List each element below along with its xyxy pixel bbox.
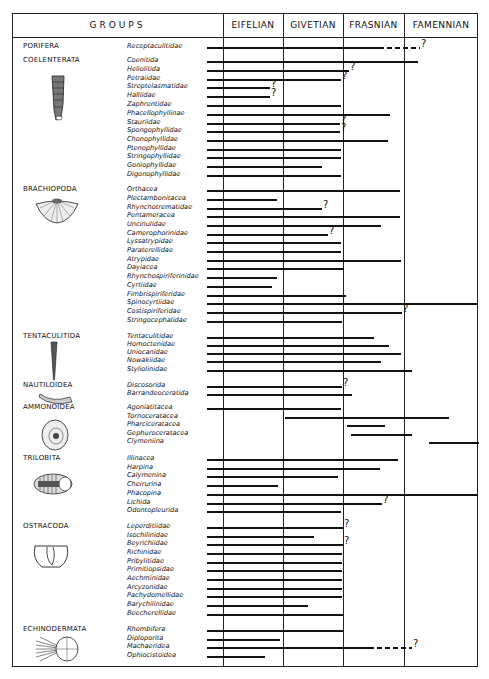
ammonite-icon [40,418,70,452]
taxon-label: Richinidae [127,548,161,556]
range-bar [207,614,343,616]
range-bar [207,295,346,297]
taxon-label: Rhynchospiriferinidae [127,272,199,280]
range-bar [207,303,477,305]
range-bar [207,553,342,555]
taxon-label: Goniophyllidae [127,161,176,169]
taxon-label: Zaphrentidae [127,100,172,108]
taxon-label: Petraiidae [127,74,160,82]
taxon-label: Ophiocistoidea [127,651,176,659]
taxon-label: Odontopleurida [127,506,178,514]
range-bar [207,656,265,658]
taxon-label: Spinocyrtiidae [127,298,174,306]
uncertain-marker: ? [383,495,388,505]
header-groups: GROUPS [12,13,223,37]
range-bar [207,216,400,218]
group-label: PORIFERA [23,42,59,50]
range-bar [207,131,340,133]
header-frasnian: FRASNIAN [343,13,404,37]
column-divider-eifelian [283,13,284,667]
taxon-label: Illinacea [127,454,154,462]
range-bar [207,527,343,529]
range-bar [207,312,402,314]
taxon-label: Spongophyllidae [127,126,182,134]
uncertain-marker: ? [421,39,426,49]
taxon-label: Styliolinidae [127,365,167,373]
uncertain-marker: ? [344,519,349,529]
taxon-label: Arcyzonidae [127,583,168,591]
taxon-label: Gephuroceratacea [127,429,188,437]
range-bar [207,47,384,49]
taxon-label: Barychilinidae [127,600,174,608]
range-bar [207,199,277,201]
taxon-label: Calymenina [127,471,166,479]
taxon-label: Paraterellidae [127,246,173,254]
taxon-label: Diploporita [127,634,163,642]
taxon-label: Tornoceratacea [127,412,178,420]
taxon-label: Camerophorinidae [127,229,188,237]
taxon-label: Fimbrispiriferidae [127,290,185,298]
column-divider-givetian [343,13,344,667]
taxon-label: Homoctenidae [127,340,175,348]
uncertain-range-dash [387,47,420,49]
brachiopod-shell-icon [34,196,80,224]
group-label: ECHINODERMATA [23,625,86,633]
trilobite-icon [32,472,74,496]
group-label: NAUTILOIDEA [23,381,73,389]
range-bar [207,361,381,363]
range-bar [207,511,341,513]
range-bar [207,157,341,159]
taxon-label: Coenitida [127,56,158,64]
range-bar [207,386,342,388]
range-bar [207,225,381,227]
range-bar [207,476,338,478]
taxon-label: Aechminidae [127,574,170,582]
range-bar [207,588,342,590]
range-bar [207,579,342,581]
range-bar [207,268,344,270]
taxon-label: Primitiopsidae [127,565,174,573]
range-bar [207,149,341,151]
header-eifelian: EIFELIAN [223,13,283,37]
taxon-label: Cheirurina [127,480,161,488]
uncertain-marker: ? [323,200,328,210]
range-bar [207,485,278,487]
taxon-label: Beecherellidae [127,609,176,617]
range-bar [207,544,343,546]
range-bar [207,345,389,347]
uncertain-marker: ? [343,378,348,388]
taxon-label: Harpina [127,463,153,471]
range-bar [285,417,449,419]
range-bar [207,468,380,470]
header-famennian: FAMENNIAN [404,13,478,37]
taxon-label: Chonophyllidae [127,135,178,143]
taxon-label: Uniocanidae [127,348,168,356]
taxon-label: Beyrichiidae [127,539,168,547]
ostracod-shell-icon [32,542,70,570]
chart-frame [12,13,478,667]
uncertain-marker: ? [350,62,355,72]
range-bar [347,425,385,427]
taxon-label: Stauriidae [127,118,161,126]
range-bar [207,96,270,98]
range-bar [207,286,272,288]
range-bar [207,277,277,279]
range-bar [207,321,342,323]
taxon-label: Pachydomellidae [127,591,183,599]
range-bar [207,494,478,496]
uncertain-marker: ? [341,123,346,133]
taxon-label: Cyrtiidae [127,281,157,289]
range-bar [207,123,340,125]
taxon-label: Heliolitida [127,65,160,73]
uncertain-marker: ? [342,71,347,81]
uncertain-range-dash [377,647,412,649]
taxon-label: Digonophyllidae [127,170,180,178]
range-bar [207,570,342,572]
range-bar [207,166,322,168]
header-divider [12,37,478,38]
range-bar [207,503,382,505]
rugose-coral-icon [50,74,66,122]
range-bar [207,408,341,410]
taxon-label: Dayiacea [127,263,158,271]
group-label: COELENTERATA [23,56,80,64]
